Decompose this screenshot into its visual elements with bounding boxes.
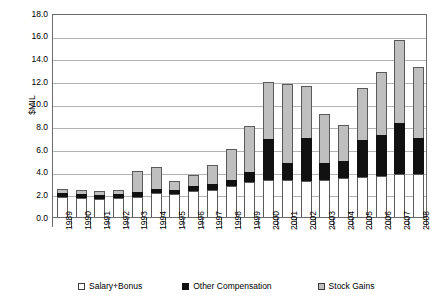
y-tick-label: 0.0 (20, 214, 48, 223)
bar-2000 (263, 82, 274, 217)
bar-1997 (207, 165, 218, 217)
bar-segment-stock (338, 125, 349, 161)
y-tick-label: 2.0 (20, 191, 48, 200)
x-tick-label: 1996 (197, 211, 206, 230)
x-tick-label: 2000 (272, 211, 281, 230)
bar-segment-stock (319, 114, 330, 163)
y-axis-tick-labels: 18.016.014.012.010.08.06.04.02.00.0 (18, 0, 48, 297)
x-tick-label: 2007 (403, 211, 412, 230)
bar-segment-stock (282, 84, 293, 162)
bar-2006 (376, 72, 387, 217)
y-tick-label: 12.0 (20, 78, 48, 87)
stacked-bar-chart: $MIL 18.016.014.012.010.08.06.04.02.00.0… (0, 0, 439, 297)
bar-segment-stock (413, 67, 424, 137)
x-axis: 1989199019911992199319941995199619971998… (52, 218, 427, 274)
x-tick-label: 2004 (347, 211, 356, 230)
bar-segment-other (301, 138, 312, 181)
y-tick-label: 6.0 (20, 146, 48, 155)
legend-swatch-stock-icon (318, 283, 325, 290)
bar-segment-stock (169, 181, 180, 190)
bar-segment-stock (132, 171, 143, 193)
x-tick-label: 1990 (84, 211, 93, 230)
bar-segment-stock (357, 88, 368, 140)
legend-label: Stock Gains (329, 282, 375, 291)
bar-1998 (226, 149, 237, 217)
bar-segment-stock (376, 72, 387, 135)
x-tick-label: 2002 (309, 211, 318, 230)
bar-2004 (338, 125, 349, 217)
x-tick-label: 1998 (234, 211, 243, 230)
legend-label: Salary+Bonus (89, 282, 142, 291)
y-tick-label: 4.0 (20, 168, 48, 177)
x-tick-label: 2005 (365, 211, 374, 230)
x-tick-label: 2006 (384, 211, 393, 230)
x-tick-label: 1993 (140, 211, 149, 230)
x-tick-label: 1999 (253, 211, 262, 230)
bar-segment-other (357, 140, 368, 177)
y-tick-label: 10.0 (20, 100, 48, 109)
x-tick (52, 218, 53, 227)
bar-2008 (413, 67, 424, 217)
x-tick-label: 2008 (422, 211, 431, 230)
x-tick-label: 1995 (178, 211, 187, 230)
legend-swatch-salary-icon (78, 283, 85, 290)
x-tick-label: 1991 (103, 211, 112, 230)
bar-segment-other (338, 161, 349, 178)
x-tick-label: 2001 (290, 211, 299, 230)
legend-item-salary[interactable]: Salary+Bonus (78, 282, 142, 291)
bar-2002 (301, 86, 312, 217)
bar-segment-stock (394, 40, 405, 123)
x-tick-label: 2003 (328, 211, 337, 230)
bar-2007 (394, 40, 405, 217)
bar-segment-stock (244, 126, 255, 171)
bar-segment-stock (301, 86, 312, 138)
x-tick-label: 1994 (159, 211, 168, 230)
plot-area (52, 14, 427, 218)
chart-legend: Salary+BonusOther CompensationStock Gain… (52, 278, 427, 294)
legend-swatch-other-icon (182, 283, 189, 290)
x-tick-label: 1992 (122, 211, 131, 230)
bar-segment-stock (263, 82, 274, 139)
bar-segment-stock (188, 175, 199, 186)
legend-item-other[interactable]: Other Compensation (182, 282, 271, 291)
bar-series-container (53, 15, 426, 217)
bar-segment-other (394, 123, 405, 174)
bar-segment-stock (207, 165, 218, 184)
bar-segment-stock (151, 167, 162, 189)
legend-item-stock[interactable]: Stock Gains (318, 282, 375, 291)
bar-segment-other (282, 163, 293, 180)
bar-2005 (357, 88, 368, 217)
bar-2001 (282, 84, 293, 217)
x-tick-label: 1989 (65, 211, 74, 230)
legend-label: Other Compensation (193, 282, 271, 291)
bar-1994 (151, 167, 162, 217)
bar-1999 (244, 126, 255, 217)
bar-segment-other (263, 139, 274, 180)
y-tick-label: 18.0 (20, 10, 48, 19)
bar-segment-other (413, 138, 424, 174)
bar-segment-other (376, 135, 387, 176)
y-tick-label: 14.0 (20, 55, 48, 64)
bar-segment-other (226, 180, 237, 187)
x-tick-label: 1997 (215, 211, 224, 230)
y-tick-label: 16.0 (20, 32, 48, 41)
bar-segment-stock (226, 149, 237, 180)
bar-segment-other (244, 172, 255, 182)
bar-segment-other (319, 163, 330, 180)
bar-2003 (319, 114, 330, 217)
y-tick-label: 8.0 (20, 123, 48, 132)
